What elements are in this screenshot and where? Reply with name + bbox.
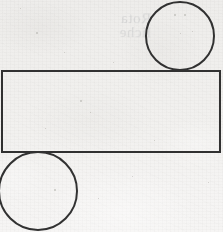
- scan-speck: [113, 62, 114, 63]
- scan-speck: [54, 189, 56, 191]
- scan-speck: [192, 31, 193, 32]
- scan-speck: [184, 14, 186, 16]
- circle-lower-left: [0, 152, 77, 230]
- scan-speck: [208, 182, 209, 183]
- rectangle-body: [2, 71, 220, 152]
- scan-speck: [154, 140, 155, 141]
- circle-upper-right: [146, 2, 214, 70]
- scan-speck: [98, 198, 99, 199]
- scan-speck: [64, 52, 65, 53]
- scan-speck: [180, 33, 181, 34]
- scan-speck: [90, 112, 91, 113]
- scan-speck: [36, 32, 38, 34]
- line-drawing-layer: [0, 0, 223, 232]
- scan-speck: [132, 176, 133, 177]
- scan-speck: [174, 14, 176, 16]
- scan-speck: [20, 8, 21, 9]
- scan-speck: [45, 128, 46, 129]
- scanned-figure-canvas: Rota liche: [0, 0, 223, 232]
- scan-speck: [80, 100, 82, 102]
